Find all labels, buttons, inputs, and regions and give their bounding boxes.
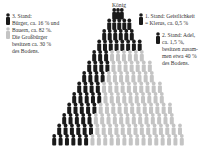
dark-person-icon: [124, 29, 128, 40]
light-person-icon: [127, 82, 131, 93]
light-person-icon: [129, 134, 133, 145]
light-person-icon: [151, 113, 155, 124]
light-person-icon: [167, 134, 171, 145]
dark-person-icon: [83, 124, 87, 135]
light-person-icon: [136, 103, 140, 114]
light-person-icon: [140, 50, 144, 61]
dark-person-icon: [130, 29, 134, 40]
light-person-icon: [99, 103, 103, 114]
light-person-icon: [135, 134, 139, 145]
dark-person-icon: [87, 61, 91, 72]
light-person-icon: [141, 92, 145, 103]
dark-person-icon: [84, 134, 88, 145]
light-person-icon: [102, 82, 106, 93]
light-person-icon: [168, 103, 172, 114]
dark-person-icon: [52, 134, 56, 145]
light-person-icon: [139, 82, 143, 93]
light-person-icon: [94, 113, 98, 124]
dark-person-icon: [126, 40, 130, 51]
dark-person-icon: [70, 124, 74, 135]
light-person-icon: [145, 82, 149, 93]
dark-person-icon: [77, 82, 81, 93]
light-person-icon: [105, 103, 109, 114]
light-person-icon: [121, 124, 125, 135]
king-label: König: [112, 2, 126, 9]
dark-person-icon: [59, 134, 63, 145]
light-person-icon: [131, 71, 135, 82]
dark-person-icon: [104, 50, 108, 61]
light-person-icon: [124, 103, 128, 114]
dark-person-icon: [115, 40, 119, 51]
dark-person-icon: [64, 124, 68, 135]
dark-person-icon: [138, 40, 142, 51]
light-person-icon: [128, 50, 132, 61]
dark-person-icon: [76, 124, 80, 135]
light-person-icon: [113, 71, 117, 82]
light-person-icon: [147, 92, 151, 103]
light-person-icon: [148, 61, 152, 72]
light-person-icon: [130, 103, 134, 114]
light-person-icon: [143, 103, 147, 114]
dark-person-icon: [88, 71, 92, 82]
dark-person-icon: [83, 82, 87, 93]
light-person-icon: [118, 103, 122, 114]
dark-person-icon: [97, 92, 101, 103]
light-person-icon: [178, 124, 182, 135]
dark-person-icon: [101, 71, 105, 82]
dark-person-icon: [122, 19, 126, 30]
light-person-icon: [129, 92, 133, 103]
dark-person-icon: [86, 103, 90, 114]
dark-person-icon: [127, 19, 131, 30]
dark-person-icon: [155, 32, 161, 44]
light-person-icon: [157, 113, 161, 124]
light-person-icon: [103, 134, 107, 145]
dark-person-icon: [93, 61, 97, 72]
light-person-icon: [103, 92, 107, 103]
light-person-icon: [114, 124, 118, 135]
second-estate-legend: 2. Stand: Adel, ca. 1,5 %, besitzen zusa…: [162, 32, 198, 67]
dark-person-icon: [67, 103, 71, 114]
light-person-icon: [138, 71, 142, 82]
light-person-icon: [114, 82, 118, 93]
light-person-icon: [152, 82, 156, 93]
dark-person-icon: [92, 103, 96, 114]
dark-person-icon: [119, 29, 123, 40]
light-person-icon: [133, 124, 137, 135]
light-person-icon: [122, 92, 126, 103]
light-person-icon: [173, 134, 177, 145]
dark-person-icon: [81, 113, 85, 124]
light-person-icon: [154, 92, 158, 103]
light-person-icon: [136, 61, 140, 72]
light-person-icon: [125, 113, 129, 124]
dark-person-icon: [57, 124, 61, 135]
light-person-icon: [116, 92, 120, 103]
dark-person-icon: [103, 40, 107, 51]
light-person-icon: [110, 134, 114, 145]
dark-person-icon: [85, 92, 89, 103]
light-person-icon: [113, 113, 117, 124]
light-person-icon: [111, 61, 115, 72]
dark-person-icon: [132, 40, 136, 51]
dark-person-icon: [120, 8, 124, 19]
dark-person-icon: [108, 29, 112, 40]
light-person-icon: [95, 124, 99, 135]
light-person-icon: [144, 71, 148, 82]
light-person-icon: [160, 92, 164, 103]
light-person-icon: [121, 82, 125, 93]
dark-person-icon: [96, 82, 100, 93]
light-person-icon: [142, 134, 146, 145]
light-person-icon: [161, 134, 165, 145]
light-person-icon: [124, 61, 128, 72]
light-person-icon: [119, 71, 123, 82]
dark-person-icon: [117, 19, 121, 30]
dark-person-icon: [75, 113, 79, 124]
dark-person-icon: [105, 61, 109, 72]
light-person-icon: [138, 113, 142, 124]
light-person-icon: [102, 124, 106, 135]
light-person-icon: [153, 124, 157, 135]
dark-person-icon: [99, 61, 103, 72]
dark-person-icon: [107, 19, 111, 30]
light-person-icon: [142, 61, 146, 72]
light-person-icon: [100, 113, 104, 124]
dark-person-icon: [98, 50, 102, 61]
